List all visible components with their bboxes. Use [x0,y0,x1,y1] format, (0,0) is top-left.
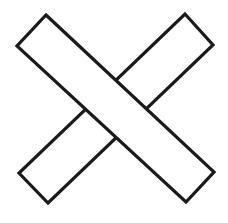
x-cross-figure: X Cross Outline Two overlapping elongate… [0,0,228,223]
figure-canvas: X Cross Outline Two overlapping elongate… [0,0,228,223]
